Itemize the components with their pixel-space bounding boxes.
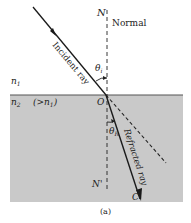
refraction-diagram: N Normal Incident ray θi n1 n2 (>n1) O θ… bbox=[0, 0, 191, 223]
origin-label: O bbox=[97, 97, 105, 107]
incident-ray-line bbox=[33, 7, 106, 95]
theta-i-arrow-icon bbox=[103, 76, 107, 80]
figure-caption: (a) bbox=[100, 207, 111, 216]
theta-i-label: θi bbox=[95, 63, 102, 74]
normal-bottom-label: N' bbox=[91, 179, 102, 189]
incident-ray-label: Incident ray bbox=[50, 40, 91, 87]
normal-text-label: Normal bbox=[112, 18, 146, 28]
normal-top-label: N bbox=[96, 7, 107, 18]
n2-relation-label: (>n1) bbox=[33, 97, 58, 108]
n1-label: n1 bbox=[11, 76, 21, 87]
end-point-label: C bbox=[132, 192, 139, 202]
